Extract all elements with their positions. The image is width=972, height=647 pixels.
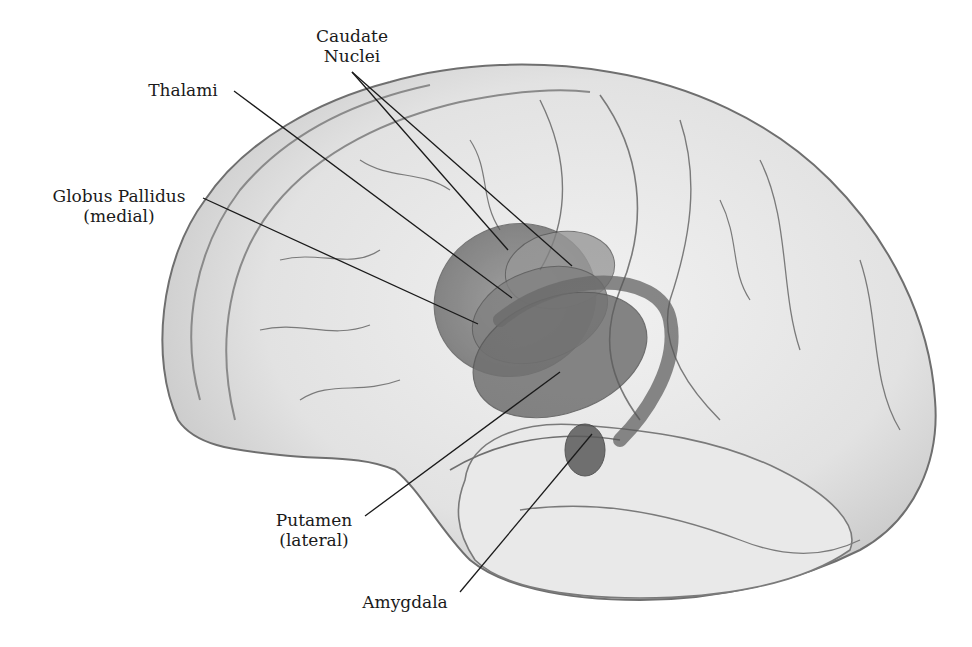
label-globus-pallidus: Globus Pallidus (medial): [36, 186, 202, 226]
label-putamen: Putamen (lateral): [268, 510, 360, 550]
label-amygdala: Amygdala: [350, 592, 460, 612]
label-globus-pallidus-line2: (medial): [36, 206, 202, 226]
label-amygdala-line1: Amygdala: [350, 592, 460, 612]
brain-diagram: Caudate Nuclei Thalami Globus Pallidus (…: [0, 0, 972, 647]
label-caudate-nuclei: Caudate Nuclei: [297, 26, 407, 66]
label-caudate-line1: Caudate: [297, 26, 407, 46]
label-putamen-line2: (lateral): [268, 530, 360, 550]
amygdala: [565, 424, 605, 476]
label-globus-pallidus-line1: Globus Pallidus: [36, 186, 202, 206]
label-thalami-line1: Thalami: [138, 80, 228, 100]
label-thalami: Thalami: [138, 80, 228, 100]
label-putamen-line1: Putamen: [268, 510, 360, 530]
label-caudate-line2: Nuclei: [297, 46, 407, 66]
